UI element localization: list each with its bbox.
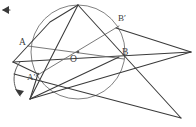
label-point-b: B [122, 48, 128, 58]
label-point-a-prime: A′ [27, 73, 35, 82]
center-point-dot [77, 51, 80, 54]
label-point-a: A [19, 38, 26, 48]
left-arrow-head-icon [2, 6, 9, 14]
polyline-left-vertex-to-apex [13, 5, 78, 62]
line-bottom-left-to-right-vertex [30, 52, 191, 99]
rotation-arrow-head-icon [15, 89, 24, 96]
label-center-o: O [70, 55, 77, 65]
label-point-b-prime: B′ [118, 14, 126, 23]
figure-canvas [0, 0, 196, 127]
line-left-vertex-to-right-vertex [13, 52, 191, 62]
line-apex-to-bottom-right [78, 5, 181, 118]
geometry-figure: A B A′ B′ O [0, 0, 196, 127]
point-aprime-dot [37, 73, 40, 76]
